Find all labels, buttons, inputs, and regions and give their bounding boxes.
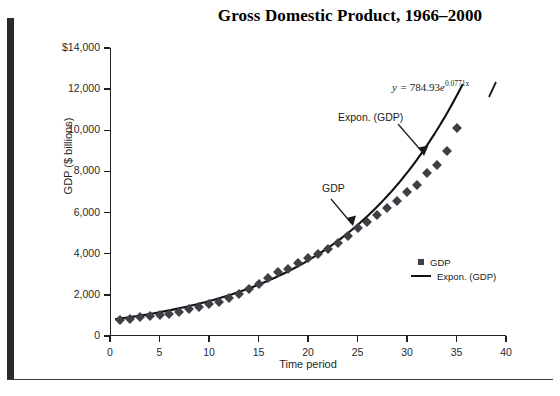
square-marker-icon — [418, 259, 424, 265]
equation-annotation: y = 784.93e0.0771x — [392, 79, 469, 93]
annotation-arrows — [331, 82, 496, 226]
line-marker-icon — [411, 275, 431, 277]
legend-label-expon: Expon. (GDP) — [437, 271, 496, 282]
legend-item-gdp: GDP — [418, 255, 496, 269]
trendline-layer — [0, 0, 560, 396]
figure-page: Gross Domestic Product, 1966–2000 02,000… — [0, 0, 560, 396]
gdp-arrow-head — [347, 216, 357, 227]
legend-item-expon: Expon. (GDP) — [418, 269, 496, 283]
chart-legend: GDP Expon. (GDP) — [418, 255, 496, 283]
gdp-annotation-label: GDP — [322, 182, 345, 194]
expon-annotation-label: Expon. (GDP) — [338, 111, 403, 123]
exponential-trendline — [116, 85, 463, 319]
equation-pointer — [489, 82, 496, 97]
gdp-chart: 02,0004,0006,0008,00010,00012,000$14,000… — [0, 0, 560, 396]
legend-label-gdp: GDP — [430, 257, 451, 268]
equation-text: y = 784.93e0.0771x — [392, 81, 469, 93]
